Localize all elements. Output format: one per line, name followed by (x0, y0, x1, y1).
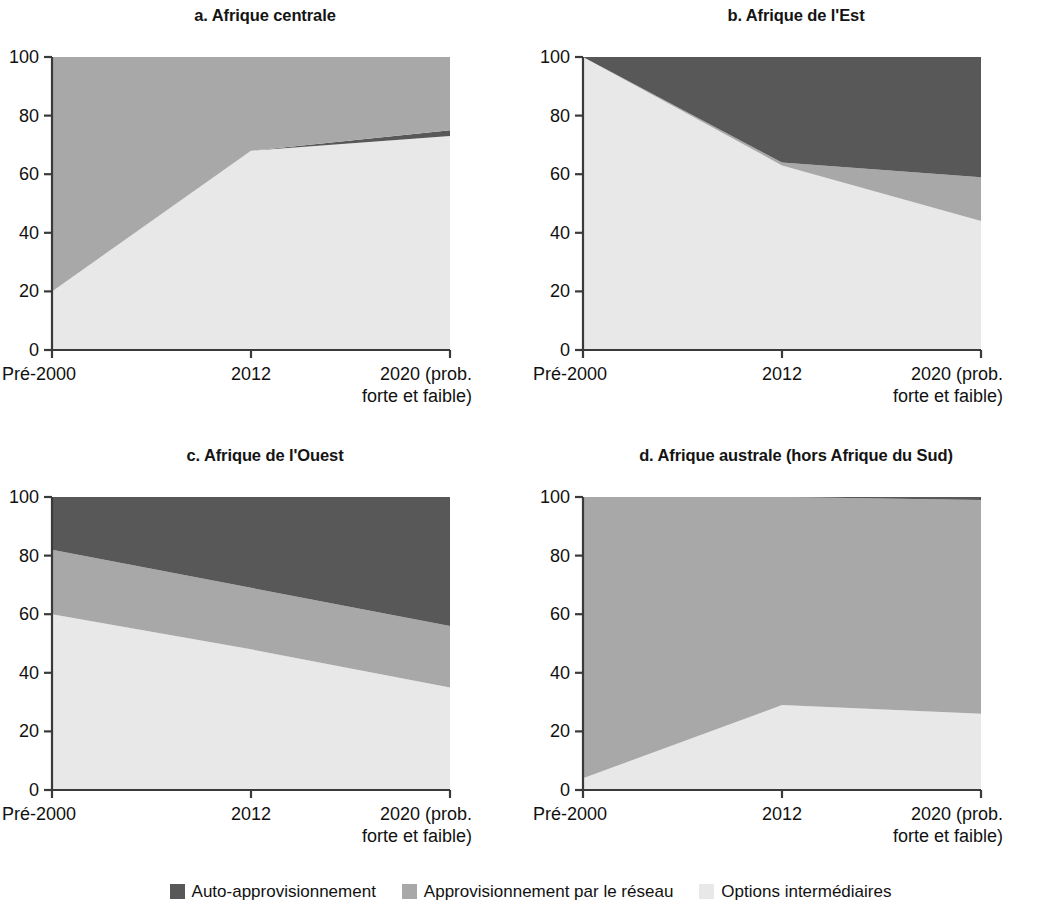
y-tick-label: 40 (19, 663, 39, 683)
y-tick-label: 40 (19, 223, 39, 243)
y-tick-label: 40 (550, 663, 570, 683)
y-tick-label: 60 (19, 604, 39, 624)
x-tick-label: Pré-2000 (533, 364, 607, 384)
y-tick-label: 20 (550, 721, 570, 741)
panel-a-svg: 020406080100Pré-200020122020 (prob.forte… (0, 0, 530, 440)
y-tick-label: 80 (19, 106, 39, 126)
x-tick-label: Pré-2000 (533, 804, 607, 824)
y-tick-label: 60 (19, 164, 39, 184)
x-tick-label-line2: forte et faible) (362, 826, 472, 846)
panel-b-svg: 020406080100Pré-200020122020 (prob.forte… (531, 0, 1061, 440)
y-tick-label: 20 (550, 281, 570, 301)
x-tick-label: 2020 (prob. (380, 804, 472, 824)
x-tick-label: 2012 (762, 364, 802, 384)
legend-label-network: Approvisionnement par le réseau (424, 882, 673, 902)
y-tick-label: 0 (29, 340, 39, 360)
y-tick-label: 80 (550, 106, 570, 126)
figure-stacked-area-panels: a. Afrique centrale 020406080100Pré-2000… (0, 0, 1061, 907)
y-tick-label: 100 (9, 47, 39, 67)
panel-a-plot: 020406080100Pré-200020122020 (prob.forte… (0, 0, 530, 440)
x-tick-label-line2: forte et faible) (893, 826, 1003, 846)
legend-item-self-supply: Auto-approvisionnement (170, 882, 376, 902)
y-tick-label: 60 (550, 604, 570, 624)
y-tick-label: 0 (29, 780, 39, 800)
y-tick-label: 40 (550, 223, 570, 243)
x-tick-label: Pré-2000 (2, 804, 76, 824)
legend-item-network: Approvisionnement par le réseau (402, 882, 673, 902)
legend-swatch-self-supply-icon (170, 884, 185, 899)
x-tick-label: 2020 (prob. (380, 364, 472, 384)
chart-legend: Auto-approvisionnement Approvisionnement… (0, 876, 1061, 907)
legend-label-intermediate: Options intermédiaires (721, 882, 891, 902)
y-tick-label: 80 (19, 546, 39, 566)
panel-c-plot: 020406080100Pré-200020122020 (prob.forte… (0, 440, 530, 880)
x-tick-label: 2012 (762, 804, 802, 824)
y-tick-label: 0 (560, 780, 570, 800)
x-tick-label: 2020 (prob. (911, 364, 1003, 384)
panel-d-svg: 020406080100Pré-200020122020 (prob.forte… (531, 440, 1061, 880)
panel-a: a. Afrique centrale 020406080100Pré-2000… (0, 0, 530, 440)
y-tick-label: 80 (550, 546, 570, 566)
x-tick-label: 2020 (prob. (911, 804, 1003, 824)
panel-c: c. Afrique de l'Ouest 020406080100Pré-20… (0, 440, 530, 880)
panel-d: d. Afrique australe (hors Afrique du Sud… (531, 440, 1061, 880)
y-tick-label: 60 (550, 164, 570, 184)
x-tick-label-line2: forte et faible) (362, 386, 472, 406)
legend-swatch-network-icon (402, 884, 417, 899)
x-tick-label: 2012 (231, 364, 271, 384)
legend-swatch-intermediate-icon (699, 884, 714, 899)
y-tick-label: 20 (19, 281, 39, 301)
panel-b: b. Afrique de l'Est 020406080100Pré-2000… (531, 0, 1061, 440)
x-tick-label: 2012 (231, 804, 271, 824)
x-tick-label: Pré-2000 (2, 364, 76, 384)
x-tick-label-line2: forte et faible) (893, 386, 1003, 406)
y-tick-label: 20 (19, 721, 39, 741)
y-tick-label: 100 (540, 487, 570, 507)
legend-item-intermediate: Options intermédiaires (699, 882, 891, 902)
panel-b-plot: 020406080100Pré-200020122020 (prob.forte… (531, 0, 1061, 440)
y-tick-label: 100 (540, 47, 570, 67)
legend-label-self-supply: Auto-approvisionnement (192, 882, 376, 902)
panel-d-plot: 020406080100Pré-200020122020 (prob.forte… (531, 440, 1061, 880)
y-tick-label: 100 (9, 487, 39, 507)
y-tick-label: 0 (560, 340, 570, 360)
panel-c-svg: 020406080100Pré-200020122020 (prob.forte… (0, 440, 530, 880)
